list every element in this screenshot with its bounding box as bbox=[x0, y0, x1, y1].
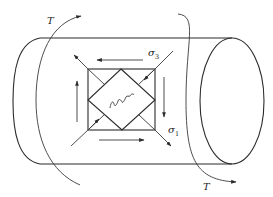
principal-stress-arrows bbox=[71, 51, 173, 146]
sigma1-subscript: 1 bbox=[175, 130, 179, 138]
diagonal-tl bbox=[88, 69, 104, 84]
torque-arrow-right-icon bbox=[178, 14, 236, 182]
torque-right: T bbox=[178, 14, 236, 192]
stress-element bbox=[88, 69, 155, 130]
crack-icon bbox=[110, 94, 134, 108]
cylinder-right-end bbox=[200, 38, 264, 164]
sigma3-arrow-tr-icon bbox=[144, 69, 155, 80]
diagonal-br bbox=[139, 115, 155, 130]
sigma3-line-bl bbox=[71, 130, 88, 146]
torque-label-top: T bbox=[47, 15, 55, 26]
sigma1-label: σ 1 bbox=[168, 124, 179, 138]
sigma3-label: σ 3 bbox=[148, 47, 159, 61]
torque-arrow-left-icon bbox=[36, 16, 81, 185]
torsion-cylinder-diagram: T T σ 3 σ 1 bbox=[0, 0, 273, 197]
sigma-arrow-tl-icon bbox=[74, 55, 88, 69]
sigma3-subscript: 3 bbox=[155, 53, 159, 61]
cylinder bbox=[13, 38, 264, 164]
torque-label-bottom: T bbox=[203, 181, 211, 192]
sigma3-arrow-bl-icon bbox=[88, 119, 99, 130]
torque-left: T bbox=[36, 15, 81, 185]
